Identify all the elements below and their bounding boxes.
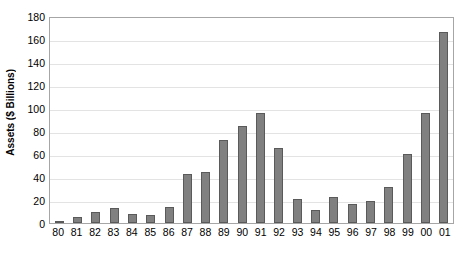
bar-slot [68,18,86,223]
x-tick-label: 92 [270,226,288,246]
bar[interactable] [146,215,155,223]
bar[interactable] [421,113,430,223]
x-tick-label: 82 [86,226,104,246]
x-tick-label: 80 [49,226,67,246]
bar[interactable] [274,148,283,223]
x-tick-label: 88 [196,226,214,246]
x-tick-label: 86 [159,226,177,246]
bar-slot [380,18,398,223]
y-tick-label: 180 [27,11,45,23]
bar-slot [197,18,215,223]
y-axis-title: Assets ($ Billions) [0,0,20,224]
bar[interactable] [110,208,119,223]
bar-slot [178,18,196,223]
bar[interactable] [201,172,210,223]
bar[interactable] [384,187,393,223]
bar[interactable] [91,212,100,223]
x-axis-tick-labels: 8081828384858687888990919293949596979899… [49,226,454,246]
bar-slot [270,18,288,223]
x-tick-label: 83 [104,226,122,246]
bar[interactable] [348,204,357,223]
x-tick-label: 85 [141,226,159,246]
bar-slot [251,18,269,223]
bar[interactable] [238,126,247,223]
bar-slot [306,18,324,223]
bar-slot [233,18,251,223]
y-tick-label: 20 [33,195,45,207]
y-axis-title-text: Assets ($ Billions) [5,69,16,156]
x-tick-label: 89 [215,226,233,246]
bar[interactable] [311,210,320,223]
bar[interactable] [366,201,375,223]
x-tick-label: 99 [399,226,417,246]
x-tick-label: 00 [417,226,435,246]
y-tick-label: 160 [27,34,45,46]
x-tick-label: 91 [251,226,269,246]
y-tick-label: 80 [33,126,45,138]
bar-slot [87,18,105,223]
bar-slot [343,18,361,223]
y-tick-label: 60 [33,149,45,161]
x-tick-label: 90 [233,226,251,246]
x-tick-label: 93 [288,226,306,246]
bars-layer [50,18,453,223]
bar[interactable] [439,32,448,223]
plot-area [49,17,454,224]
bar-slot [288,18,306,223]
x-tick-label: 96 [344,226,362,246]
x-tick-label: 97 [362,226,380,246]
bar[interactable] [256,113,265,223]
x-tick-label: 84 [123,226,141,246]
x-tick-label: 87 [178,226,196,246]
bar[interactable] [55,221,64,223]
bar[interactable] [329,197,338,223]
bar[interactable] [128,214,137,223]
y-tick-label: 100 [27,103,45,115]
bar-slot [361,18,379,223]
x-tick-label: 01 [436,226,454,246]
y-tick-label: 140 [27,57,45,69]
y-tick-label: 120 [27,80,45,92]
y-axis-tick-labels: 020406080100120140160180 [18,0,48,224]
y-tick-label: 40 [33,172,45,184]
bar-slot [435,18,453,223]
bar-slot [160,18,178,223]
bar-slot [142,18,160,223]
bar-slot [325,18,343,223]
bar-slot [416,18,434,223]
bar[interactable] [219,140,228,223]
bar-slot [398,18,416,223]
bar[interactable] [293,199,302,223]
x-tick-label: 81 [67,226,85,246]
x-tick-label: 95 [325,226,343,246]
y-tick-label: 0 [39,218,45,230]
bar[interactable] [73,217,82,223]
bar[interactable] [403,154,412,223]
x-tick-label: 98 [380,226,398,246]
bar-slot [50,18,68,223]
x-tick-label: 94 [307,226,325,246]
bar-slot [105,18,123,223]
bar[interactable] [183,174,192,223]
bar-chart: Assets ($ Billions) 02040608010012014016… [0,0,463,260]
bar-slot [123,18,141,223]
bar[interactable] [165,207,174,223]
bar-slot [215,18,233,223]
